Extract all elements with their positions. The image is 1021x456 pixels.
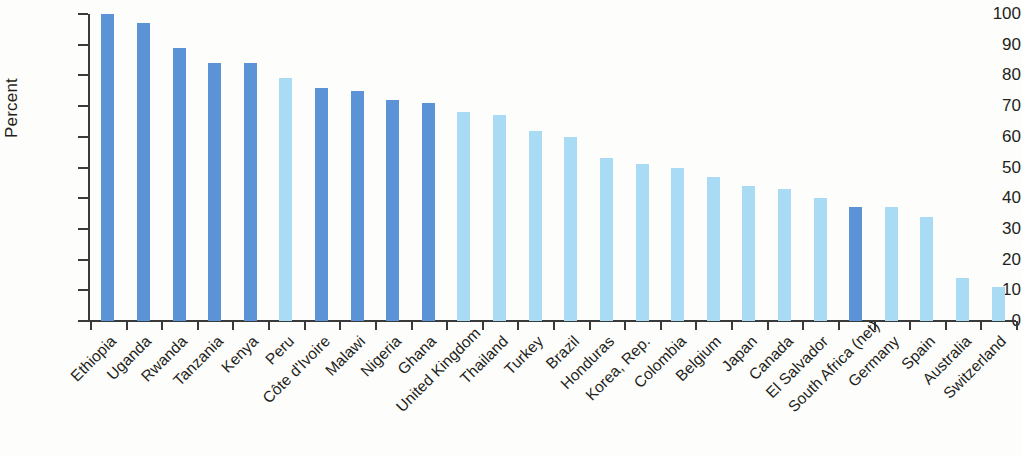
x-axis-tick xyxy=(446,321,448,330)
bar xyxy=(564,137,577,321)
y-axis-tick xyxy=(78,44,88,46)
bar xyxy=(814,198,827,321)
x-axis-tick xyxy=(304,321,306,330)
x-axis-tick xyxy=(126,321,128,330)
bar-chart: Percent 0102030405060708090100 EthiopiaU… xyxy=(0,0,1021,456)
bar xyxy=(671,168,684,322)
bar xyxy=(885,207,898,321)
bar xyxy=(778,189,791,321)
bar xyxy=(208,63,221,321)
x-axis-tick xyxy=(161,321,163,330)
y-axis-tick xyxy=(78,136,88,138)
x-axis-tick xyxy=(1016,321,1018,330)
x-axis-tick xyxy=(482,321,484,330)
bar xyxy=(101,14,114,321)
y-axis-tick xyxy=(78,197,88,199)
bar xyxy=(279,78,292,321)
x-axis-tick xyxy=(375,321,377,330)
bar xyxy=(529,131,542,321)
bar xyxy=(956,278,969,321)
x-axis-tick xyxy=(802,321,804,330)
y-axis-tick xyxy=(78,228,88,230)
x-axis-tick xyxy=(909,321,911,330)
bar xyxy=(920,217,933,321)
x-axis-tick xyxy=(695,321,697,330)
bar xyxy=(457,112,470,321)
x-axis-tick xyxy=(767,321,769,330)
x-axis-tick xyxy=(838,321,840,330)
x-axis-tick xyxy=(660,321,662,330)
x-axis-tick xyxy=(624,321,626,330)
bar xyxy=(315,88,328,321)
bar xyxy=(992,287,1005,321)
bar xyxy=(244,63,257,321)
plot-area xyxy=(90,14,1016,321)
y-axis-tick xyxy=(78,259,88,261)
bar xyxy=(351,91,364,321)
y-axis-tick xyxy=(78,320,88,322)
x-axis-tick xyxy=(90,321,92,330)
y-axis-tick xyxy=(78,105,88,107)
bar xyxy=(636,164,649,321)
bar xyxy=(137,23,150,321)
bar xyxy=(707,177,720,321)
x-axis-tick xyxy=(553,321,555,330)
bar xyxy=(386,100,399,321)
y-axis-tick xyxy=(78,167,88,169)
bar xyxy=(600,158,613,321)
bar xyxy=(849,207,862,321)
x-axis-tick xyxy=(197,321,199,330)
x-axis-tick xyxy=(589,321,591,330)
y-axis-title: Percent xyxy=(2,18,22,138)
x-axis-tick xyxy=(731,321,733,330)
x-axis-tick xyxy=(339,321,341,330)
x-axis-tick xyxy=(232,321,234,330)
x-axis-tick xyxy=(980,321,982,330)
bar xyxy=(173,48,186,321)
x-axis-tick xyxy=(411,321,413,330)
x-axis-tick xyxy=(517,321,519,330)
bar xyxy=(742,186,755,321)
y-axis-tick xyxy=(78,74,88,76)
x-axis-tick xyxy=(268,321,270,330)
x-axis-tick xyxy=(945,321,947,330)
y-axis-tick xyxy=(78,289,88,291)
bar xyxy=(422,103,435,321)
y-axis-tick xyxy=(78,13,88,15)
bar xyxy=(493,115,506,321)
